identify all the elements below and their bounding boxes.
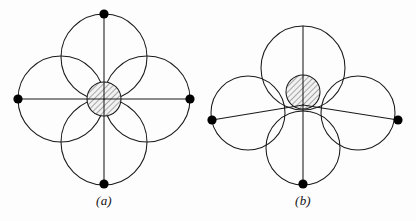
dot-right xyxy=(393,115,402,124)
dot-bottom xyxy=(99,179,108,188)
dot-right xyxy=(185,94,194,103)
panel-b-caption: (b) xyxy=(273,193,333,209)
circle-packing-diagram xyxy=(0,0,416,221)
dot-left xyxy=(13,94,22,103)
dot-left xyxy=(207,115,216,124)
figure-container: (a) (b) xyxy=(0,0,416,221)
panel-a-caption: (a) xyxy=(74,193,134,209)
dot-bottom xyxy=(298,179,307,188)
dot-top xyxy=(99,9,108,18)
figure-background xyxy=(0,0,416,221)
